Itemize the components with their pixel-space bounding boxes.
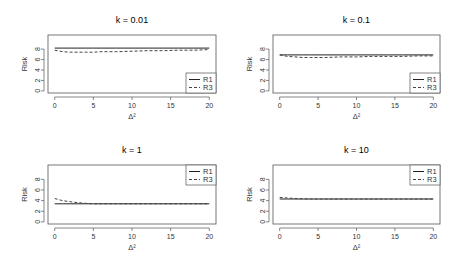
legend: R1R3 xyxy=(186,165,216,185)
x-tick-label: 10 xyxy=(128,233,136,240)
x-tick-label: 15 xyxy=(167,102,175,109)
y-tick-label: 6 xyxy=(35,58,42,62)
y-tick-label: 6 xyxy=(35,188,42,192)
y-tick-label: 4 xyxy=(35,199,42,203)
risk-charts-figure: k = 0.0105101520Δ²02468RiskR1R3k = 0.105… xyxy=(0,0,464,263)
chart-panel-3: k = 1005101520Δ²02468RiskR1R3 xyxy=(245,145,440,252)
series-line-r3 xyxy=(55,50,210,53)
y-tick-label: 2 xyxy=(260,209,267,213)
x-tick-label: 15 xyxy=(391,233,399,240)
y-tick-label: 0 xyxy=(35,89,42,93)
x-tick-label: 10 xyxy=(353,102,361,109)
y-tick-label: 4 xyxy=(260,68,267,72)
x-axis-label: Δ² xyxy=(128,243,136,252)
x-tick-label: 5 xyxy=(91,233,95,240)
x-axis-label: Δ² xyxy=(353,243,361,252)
x-tick-label: 0 xyxy=(53,102,57,109)
y-tick-label: 2 xyxy=(35,209,42,213)
y-axis-label: Risk xyxy=(20,187,29,202)
y-tick-label: 8 xyxy=(260,47,267,51)
legend: R1R3 xyxy=(186,73,216,93)
x-tick-label: 5 xyxy=(91,102,95,109)
y-tick-label: 8 xyxy=(35,47,42,51)
chart-panel-2: k = 105101520Δ²02468RiskR1R3 xyxy=(20,145,216,252)
x-tick-label: 20 xyxy=(205,102,213,109)
chart-title: k = 0.1 xyxy=(343,15,370,25)
chart-panel-0: k = 0.0105101520Δ²02468RiskR1R3 xyxy=(20,15,216,121)
x-tick-label: 10 xyxy=(353,233,361,240)
legend: R1R3 xyxy=(410,165,440,185)
legend-label: R3 xyxy=(427,83,437,92)
x-tick-label: 20 xyxy=(205,233,213,240)
x-axis-label: Δ² xyxy=(128,112,136,121)
x-tick-label: 0 xyxy=(278,102,282,109)
y-axis-label: Risk xyxy=(245,56,254,71)
chart-title: k = 1 xyxy=(122,145,142,155)
y-tick-label: 4 xyxy=(35,68,42,72)
chart-panel-1: k = 0.105101520Δ²02468RiskR1R3 xyxy=(245,15,440,121)
x-tick-label: 0 xyxy=(278,233,282,240)
x-tick-label: 20 xyxy=(429,233,437,240)
y-tick-label: 0 xyxy=(260,220,267,224)
x-tick-label: 20 xyxy=(429,102,437,109)
y-tick-label: 6 xyxy=(260,58,267,62)
y-tick-label: 6 xyxy=(260,188,267,192)
y-tick-label: 4 xyxy=(260,199,267,203)
x-tick-label: 5 xyxy=(316,102,320,109)
legend-label: R3 xyxy=(203,175,213,184)
x-tick-label: 10 xyxy=(128,102,136,109)
y-tick-label: 0 xyxy=(35,220,42,224)
x-tick-label: 15 xyxy=(167,233,175,240)
y-tick-label: 0 xyxy=(260,89,267,93)
x-tick-label: 0 xyxy=(53,233,57,240)
legend: R1R3 xyxy=(410,73,440,93)
x-tick-label: 5 xyxy=(316,233,320,240)
y-tick-label: 8 xyxy=(260,177,267,181)
x-tick-label: 15 xyxy=(391,102,399,109)
y-tick-label: 8 xyxy=(35,177,42,181)
legend-label: R3 xyxy=(427,175,437,184)
x-axis-label: Δ² xyxy=(353,112,361,121)
y-axis-label: Risk xyxy=(20,56,29,71)
y-tick-label: 2 xyxy=(35,78,42,82)
y-axis-label: Risk xyxy=(245,187,254,202)
y-tick-label: 2 xyxy=(260,78,267,82)
series-line-r3 xyxy=(55,199,210,204)
chart-title: k = 0.01 xyxy=(116,15,148,25)
legend-label: R3 xyxy=(203,83,213,92)
chart-title: k = 10 xyxy=(344,145,369,155)
